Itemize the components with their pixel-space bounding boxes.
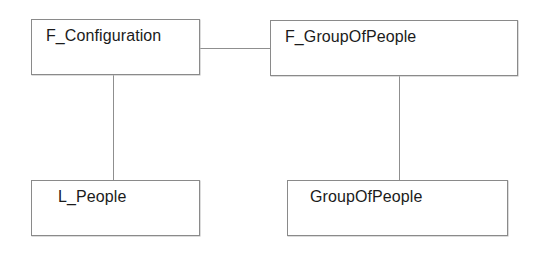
class-label-f-groupofpeople: F_GroupOfPeople [285, 26, 416, 48]
class-label-f-configuration: F_Configuration [46, 25, 161, 47]
association-line-groupofpeople-groupofpeople [399, 75, 400, 181]
class-box-f-groupofpeople[interactable]: F_GroupOfPeople [270, 20, 518, 76]
class-diagram-canvas: F_Configuration F_GroupOfPeople L_People… [0, 0, 534, 260]
class-box-groupofpeople[interactable]: GroupOfPeople [287, 180, 508, 236]
class-label-groupofpeople: GroupOfPeople [310, 186, 422, 208]
class-box-f-configuration[interactable]: F_Configuration [31, 19, 200, 75]
association-line-configuration-groupofpeople [199, 48, 271, 49]
association-line-configuration-people [113, 74, 114, 181]
class-label-l-people: L_People [58, 186, 126, 208]
class-box-l-people[interactable]: L_People [31, 180, 200, 236]
